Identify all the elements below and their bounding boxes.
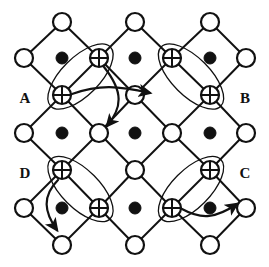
- crossed-node-r2-c1: [53, 86, 71, 104]
- node-r3-c0: [15, 124, 33, 142]
- dot-r5-c3: [129, 202, 141, 214]
- node-r0-c1: [53, 13, 71, 31]
- crossed-node-r5-c2: [90, 199, 108, 217]
- node-r6-c3: [126, 236, 144, 254]
- dot-r1-c5: [204, 52, 216, 64]
- dot-r1-c1: [56, 52, 68, 64]
- crossed-node-r5-c4: [163, 199, 181, 217]
- node-r6-c1: [53, 236, 71, 254]
- node-r6-c5: [201, 236, 219, 254]
- node-r4-c3: [126, 161, 144, 179]
- region-label-D: D: [20, 165, 31, 181]
- region-label-C: C: [240, 165, 251, 181]
- dot-r5-c5: [204, 202, 216, 214]
- node-r5-c0: [15, 199, 33, 217]
- node-r5-c6: [237, 199, 255, 217]
- node-r1-c6: [237, 49, 255, 67]
- dot-r3-c5: [204, 127, 216, 139]
- crossed-node-r2-c5: [201, 86, 219, 104]
- node-r3-c6: [237, 124, 255, 142]
- crossed-node-r4-c5: [201, 161, 219, 179]
- crossed-node-r1-c4: [163, 49, 181, 67]
- region-label-B: B: [240, 90, 250, 106]
- node-r3-c2: [90, 124, 108, 142]
- node-r0-c3: [126, 13, 144, 31]
- dot-r1-c3: [129, 52, 141, 64]
- region-label-A: A: [20, 90, 31, 106]
- crossed-node-r4-c1: [53, 161, 71, 179]
- dot-r3-c3: [129, 127, 141, 139]
- node-r1-c0: [15, 49, 33, 67]
- lattice-figure: ABDC: [0, 0, 269, 267]
- node-r3-c4: [163, 124, 181, 142]
- dot-r5-c1: [56, 202, 68, 214]
- crossed-node-r1-c2: [90, 49, 108, 67]
- dot-r3-c1: [56, 127, 68, 139]
- lattice-canvas: ABDC: [0, 0, 269, 267]
- node-r0-c5: [201, 13, 219, 31]
